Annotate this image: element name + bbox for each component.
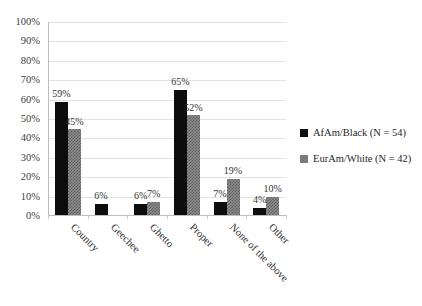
x-axis-category-label: Proper — [187, 222, 214, 249]
x-axis-tick — [48, 215, 49, 219]
gridline — [48, 22, 286, 23]
bar-value-label: 65% — [167, 77, 193, 87]
bar-group — [214, 22, 240, 216]
gridline — [48, 177, 286, 178]
bar-group — [174, 22, 200, 216]
bar-group — [95, 22, 121, 216]
legend-swatch-afam-black-icon — [300, 129, 308, 137]
y-axis-tick-label: 90% — [0, 36, 40, 47]
y-axis-line — [48, 22, 49, 216]
y-axis-tick-label: 70% — [0, 75, 40, 86]
y-axis-tick-label: 40% — [0, 133, 40, 144]
bar-value-label: 7% — [141, 189, 167, 199]
gridline — [48, 41, 286, 42]
legend-item[interactable]: EurAm/White (N = 42) — [300, 154, 422, 165]
x-axis-category-label: Country — [68, 222, 100, 254]
y-axis-tick-labels: 0%10%20%30%40%50%60%70%80%90%100% — [0, 22, 44, 216]
y-axis-tick-label: 0% — [0, 211, 40, 222]
y-axis-tick-label: 10% — [0, 191, 40, 202]
x-axis-tick — [167, 215, 168, 219]
bar-chart: 0%10%20%30%40%50%60%70%80%90%100% 59%45%… — [0, 0, 422, 306]
y-axis-tick-label: 30% — [0, 153, 40, 164]
bar-euram-white — [187, 115, 200, 216]
bar-euram-white — [68, 129, 81, 216]
y-axis-tick-label: 60% — [0, 94, 40, 105]
x-axis-tick — [207, 215, 208, 219]
y-axis-tick-label: 80% — [0, 56, 40, 67]
gridline — [48, 100, 286, 101]
legend-label: AfAm/Black (N = 54) — [313, 128, 406, 139]
x-axis-category-label: Other — [267, 222, 291, 246]
legend-item[interactable]: AfAm/Black (N = 54) — [300, 128, 422, 139]
bar-value-label: 19% — [220, 166, 246, 176]
x-axis-category-label: Ghetto — [148, 222, 176, 250]
chart-legend: AfAm/Black (N = 54)EurAm/White (N = 42) — [300, 128, 422, 179]
legend-swatch-euram-white-icon — [300, 155, 308, 163]
plot-area: 59%45%6%6%7%65%52%7%19%4%10% — [48, 22, 286, 216]
y-axis-tick-label: 20% — [0, 172, 40, 183]
gridline — [48, 61, 286, 62]
x-axis-tick — [127, 215, 128, 219]
bar-afam-black — [214, 202, 227, 216]
bar-group — [134, 22, 160, 216]
x-axis-tick — [246, 215, 247, 219]
gridline — [48, 138, 286, 139]
bar-value-label: 45% — [61, 117, 87, 127]
bar-value-label: 10% — [260, 184, 286, 194]
bar-value-label: 52% — [180, 103, 206, 113]
y-axis-tick-label: 100% — [0, 17, 40, 28]
x-axis-tick — [88, 215, 89, 219]
bar-value-label: 59% — [48, 89, 74, 99]
bar-euram-white — [147, 202, 160, 216]
x-axis-category-label: Geechee — [108, 222, 141, 255]
bar-value-label: 4% — [247, 195, 273, 205]
y-axis-tick-label: 50% — [0, 114, 40, 125]
legend-label: EurAm/White (N = 42) — [313, 154, 411, 165]
gridline — [48, 158, 286, 159]
x-axis-tick — [286, 215, 287, 219]
bar-value-label: 6% — [88, 191, 114, 201]
bar-value-label: 7% — [207, 189, 233, 199]
